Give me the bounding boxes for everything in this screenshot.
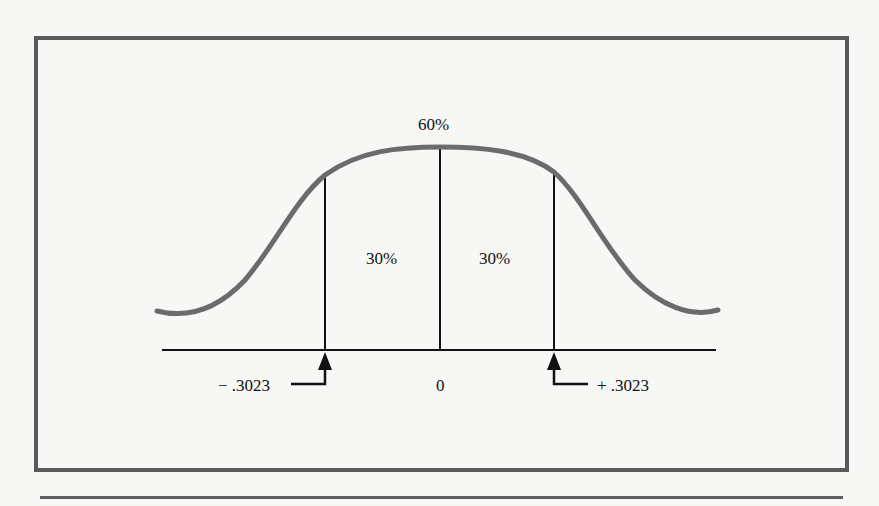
left-area-label: 30% bbox=[366, 250, 397, 267]
distribution-diagram bbox=[0, 0, 879, 506]
right-tick-label: + .3023 bbox=[597, 377, 649, 394]
right-area-label: 30% bbox=[479, 250, 510, 267]
center-tick-label: 0 bbox=[436, 377, 445, 394]
left-tick-label: − .3023 bbox=[218, 377, 270, 394]
left-arrow-icon bbox=[318, 352, 332, 370]
distribution-curve bbox=[157, 147, 718, 314]
peak-label: 60% bbox=[418, 116, 449, 133]
right-arrow-icon bbox=[547, 352, 561, 370]
